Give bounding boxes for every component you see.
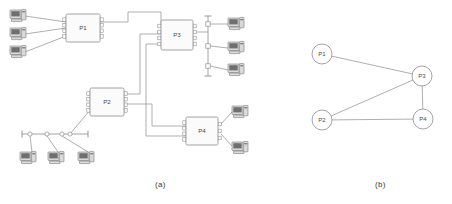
figure-canvas: P1P2P3P4 P1P2P3P4 — [0, 0, 452, 204]
host-tower-slot — [240, 19, 243, 20]
bus-tap-h-3 — [60, 132, 64, 136]
host-screen — [229, 43, 237, 48]
host-tower — [21, 45, 26, 55]
router-port-left-2 — [183, 126, 186, 130]
link-p2-p3 — [124, 34, 161, 94]
node-label: P2 — [318, 117, 326, 123]
host-keyboard — [230, 51, 241, 54]
host-tower-slot — [22, 11, 25, 12]
host-keyboard — [234, 115, 245, 118]
host-h1 — [10, 9, 26, 21]
host-link-busv-3 — [210, 66, 228, 70]
host-tower — [21, 27, 26, 37]
router-p2: P2 — [87, 88, 127, 116]
bus-tap-2 — [206, 44, 210, 48]
graph-node-p4: P4 — [413, 109, 433, 129]
host-link-busv-2 — [210, 46, 228, 48]
host-h10 — [232, 105, 248, 117]
bus-tap-3 — [206, 64, 210, 68]
edge-p2-p4 — [332, 119, 413, 120]
host-link-p1-3 — [25, 36, 66, 52]
panel-b-edges — [331, 56, 423, 120]
host-link-bush-1 — [30, 136, 32, 152]
host-keyboard — [230, 27, 241, 30]
host-tower-slot — [22, 29, 25, 30]
router-port-right-4 — [124, 109, 127, 113]
router-port-right-3 — [193, 36, 196, 40]
router-port-right-3 — [100, 29, 103, 33]
host-h6 — [228, 63, 244, 75]
host-tower-slot — [240, 43, 243, 44]
host-link-bush-2 — [47, 136, 58, 152]
router-port-left-1 — [87, 92, 90, 96]
panel-b-caption: (b) — [375, 180, 386, 189]
host-tower — [239, 63, 244, 73]
node-label: P3 — [418, 73, 426, 79]
host-screen — [11, 47, 19, 52]
router-label: P2 — [103, 98, 111, 105]
host-tower-slot — [22, 47, 25, 48]
host-screen — [21, 153, 29, 158]
bus-tap-h-2 — [45, 132, 49, 136]
host-screen — [49, 153, 57, 158]
router-port-right-1 — [218, 122, 221, 126]
figure-root: P1P2P3P4 P1P2P3P4 (a) (b) — [0, 0, 452, 204]
host-screen — [233, 107, 241, 112]
router-port-left-2 — [87, 97, 90, 101]
host-keyboard — [80, 161, 91, 164]
router-port-right-2 — [218, 129, 221, 133]
router-label: P1 — [79, 24, 87, 31]
host-keyboard — [50, 161, 61, 164]
host-screen — [229, 19, 237, 24]
router-label: P4 — [198, 127, 206, 134]
host-tower-slot — [60, 153, 63, 154]
router-port-right-3 — [124, 103, 127, 107]
router-p1: P1 — [63, 14, 103, 42]
router-port-left-3 — [158, 36, 161, 40]
router-port-left-3 — [87, 103, 90, 107]
host-keyboard — [230, 73, 241, 76]
router-p3: P3 — [158, 20, 196, 50]
router-port-right-2 — [193, 30, 196, 34]
host-tower — [21, 9, 26, 19]
edge-p3-p4 — [422, 86, 423, 109]
router-port-left-4 — [63, 35, 66, 39]
host-keyboard — [12, 37, 23, 40]
router-port-right-2 — [124, 97, 127, 101]
link-p1-p3 — [100, 12, 161, 26]
router-port-right-2 — [100, 23, 103, 27]
router-port-left-1 — [158, 24, 161, 28]
graph-node-p3: P3 — [412, 66, 432, 86]
host-link-p1-2 — [25, 28, 66, 34]
link-p2-bush — [70, 110, 90, 134]
host-keyboard — [22, 161, 33, 164]
host-keyboard — [12, 19, 23, 22]
host-keyboard — [234, 151, 245, 154]
router-port-right-1 — [100, 18, 103, 22]
edge-p2-p3 — [331, 80, 413, 116]
graph-node-p1: P1 — [312, 44, 332, 64]
panel-b-nodes: P1P2P3P4 — [312, 44, 433, 130]
host-link-p1-1 — [25, 16, 66, 22]
host-screen — [79, 153, 87, 158]
host-screen — [11, 29, 19, 34]
host-h8 — [48, 151, 64, 163]
router-port-right-1 — [193, 24, 196, 28]
host-tower — [243, 141, 248, 151]
router-port-right-1 — [124, 92, 127, 96]
node-label: P1 — [318, 51, 326, 57]
router-port-left-4 — [158, 42, 161, 46]
router-port-left-4 — [87, 109, 90, 113]
bus-tap-h-1 — [28, 132, 32, 136]
host-tower-slot — [32, 153, 35, 154]
host-tower-slot — [240, 65, 243, 66]
host-h9 — [78, 151, 94, 163]
router-port-left-3 — [183, 132, 186, 136]
host-link-bush-3 — [62, 136, 88, 152]
host-tower — [239, 17, 244, 27]
host-h2 — [10, 27, 26, 39]
router-port-left-3 — [63, 29, 66, 33]
host-tower — [59, 151, 64, 161]
host-screen — [229, 65, 237, 70]
host-tower-slot — [90, 153, 93, 154]
